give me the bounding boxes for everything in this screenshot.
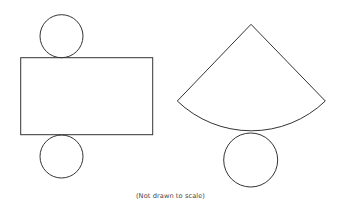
cylinder-top-circle — [40, 15, 83, 58]
cone-base-circle — [224, 133, 278, 187]
nets-figure — [0, 0, 341, 205]
cylinder-bottom-circle — [40, 135, 83, 178]
cylinder-lateral-rectangle — [21, 58, 153, 135]
cone-lateral-sector — [177, 24, 325, 130]
not-to-scale-caption: (Not drawn to scale) — [0, 192, 341, 200]
